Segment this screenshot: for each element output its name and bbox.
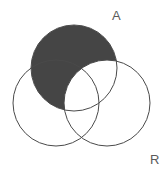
- venn-diagram-canvas: [0, 0, 164, 176]
- venn-diagram-figure: A R: [0, 0, 164, 176]
- set-label-a: A: [112, 9, 121, 22]
- set-label-r: R: [150, 153, 160, 166]
